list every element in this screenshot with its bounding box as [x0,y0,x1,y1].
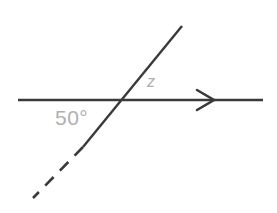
angle-diagram-canvas: 50° z [0,0,277,213]
geometry-figure [0,0,277,213]
transversal-dashed [33,147,83,198]
angle-label-z: z [147,74,155,90]
transversal-solid [83,26,182,147]
angle-label-50: 50° [55,107,88,128]
